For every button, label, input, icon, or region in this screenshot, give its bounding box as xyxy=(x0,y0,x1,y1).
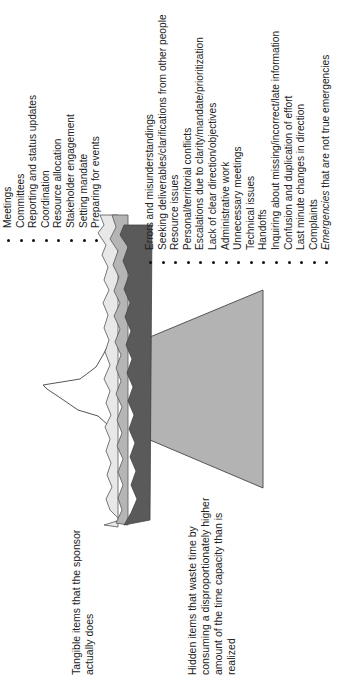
list-item-text: that are not true emergencies xyxy=(320,55,331,191)
list-item: Complaints xyxy=(308,14,321,267)
submerged-iceberg xyxy=(150,290,263,488)
list-item: Coordination xyxy=(40,95,53,245)
list-item: Confusion and duplication of effort xyxy=(283,14,296,267)
list-item: Stakeholder engagement xyxy=(65,95,78,245)
hidden-items-label: Hidden items that waste time by consumin… xyxy=(186,485,238,675)
list-item: Meetings xyxy=(2,95,15,245)
hidden-items-list: Errors and misunderstandings Seeking del… xyxy=(144,14,333,267)
iceberg-tip xyxy=(43,336,113,436)
visible-items-list: Meetings Committees Reporting and status… xyxy=(2,95,103,245)
list-item-emergencies: Emergencies that are not true emergencie… xyxy=(320,14,333,267)
list-item: Setting mandate xyxy=(78,95,91,245)
list-item: Administrative work xyxy=(220,14,233,267)
list-item: Handoffs xyxy=(257,14,270,267)
list-item: Resource issues xyxy=(169,14,182,267)
list-item: Escalations due to clarity/mandate/prior… xyxy=(194,14,207,267)
list-item: Unnecessary meetings xyxy=(232,14,245,267)
list-item: Errors and misunderstandings xyxy=(144,14,157,267)
list-item: Seeking deliverables/clarifications from… xyxy=(157,14,170,267)
tangible-items-label: Tangible items that the sponsor actually… xyxy=(70,525,96,675)
list-item: Personal/territorial conflicts xyxy=(182,14,195,267)
list-item: Technical issues xyxy=(245,14,258,267)
emphasis-text: Emergencies xyxy=(320,191,331,250)
list-item: Reporting and status updates xyxy=(27,95,40,245)
list-item: Inquiring about missing/incorrect/late i… xyxy=(270,14,283,267)
list-item: Lack of clear direction/objectives xyxy=(207,14,220,267)
list-item: Resource allocation xyxy=(52,95,65,245)
list-item: Committees xyxy=(15,95,28,245)
list-item: Preparing for events xyxy=(90,95,103,245)
rotated-diagram-frame: Tangible items that the sponsor actually… xyxy=(0,0,347,685)
list-item: Last minute changes in direction xyxy=(295,14,308,267)
